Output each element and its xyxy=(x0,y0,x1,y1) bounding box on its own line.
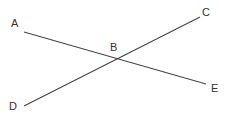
intersecting-lines-diagram: A B C D E xyxy=(0,0,228,116)
label-a: A xyxy=(11,17,19,29)
label-b: B xyxy=(110,41,117,53)
label-c: C xyxy=(202,6,210,18)
line-ae xyxy=(24,32,206,84)
label-e: E xyxy=(211,82,218,94)
line-dc xyxy=(24,17,200,106)
label-d: D xyxy=(9,100,17,112)
